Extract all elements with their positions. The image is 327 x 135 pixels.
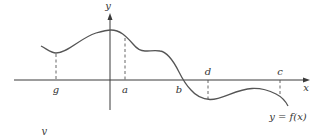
x-axis-label: x	[303, 82, 309, 93]
point-label-c: c	[277, 66, 283, 77]
point-label-g: g	[53, 84, 59, 95]
function-graph: y x g a b d c y = f(x) y	[0, 0, 327, 135]
curve-label: y = f(x)	[268, 111, 307, 122]
y-axis-label: y	[104, 0, 111, 11]
function-curve	[41, 30, 288, 106]
y-axis-arrow-icon	[108, 13, 113, 20]
point-label-a: a	[122, 84, 128, 95]
point-label-d: d	[205, 66, 211, 77]
point-label-b: b	[176, 84, 182, 95]
stray-y-label: y	[40, 125, 47, 135]
